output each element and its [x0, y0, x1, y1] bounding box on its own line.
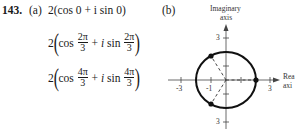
y-tick-label: 3	[216, 117, 220, 126]
x-tick-label: 3	[268, 84, 272, 93]
root-point-2pi-3	[208, 53, 213, 58]
real-axis-arrow-icon	[273, 78, 280, 83]
imaginary-axis-label-line1: Imaginary	[210, 4, 241, 13]
imaginary-axis-arrow-icon	[224, 24, 229, 31]
x-tick-label: -3	[176, 84, 182, 93]
imaginary-axis-label-line2: axis	[220, 13, 232, 22]
root-point-4pi-3	[208, 101, 213, 106]
y-tick-label: 3	[216, 33, 220, 42]
real-axis-label-line1: Rea	[283, 72, 295, 81]
root-point-0	[253, 77, 258, 82]
real-axis-label-line2: axi	[283, 81, 292, 90]
x-tick-label: -1	[206, 84, 212, 93]
complex-plane-graph	[0, 0, 297, 129]
